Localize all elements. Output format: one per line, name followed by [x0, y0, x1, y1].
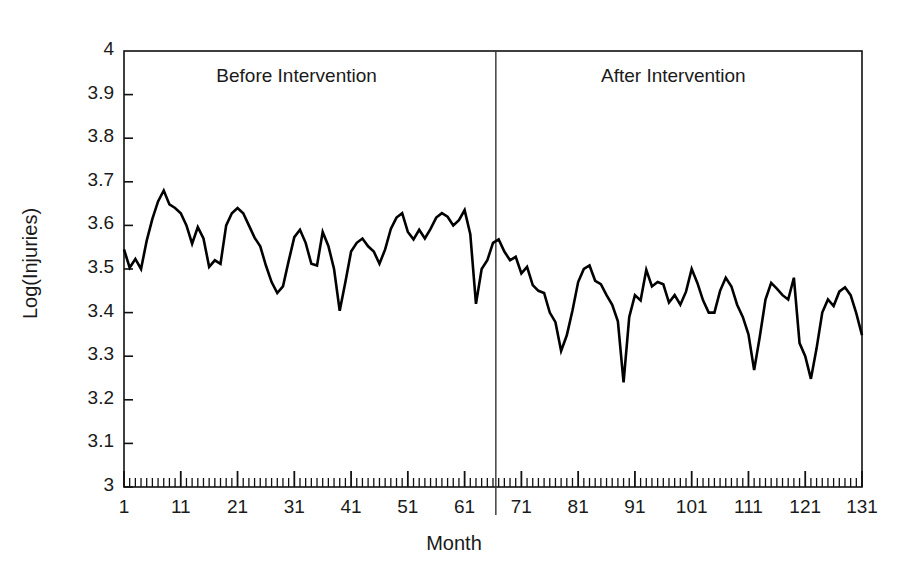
y-axis-tick-label: 3.7 [30, 169, 114, 191]
plot-border [124, 51, 862, 487]
y-axis-tick-label: 3.4 [30, 300, 114, 322]
after-intervention-label: After Intervention [601, 65, 746, 87]
y-axis-tick-label: 3.3 [30, 343, 114, 365]
y-axis-tick-label: 3.1 [30, 430, 114, 452]
y-axis-tick-label: 3.2 [30, 387, 114, 409]
y-axis-title: Log(Injuries) [19, 154, 42, 374]
x-axis-minor-ticks [130, 478, 857, 487]
y-axis-tick-label: 3.9 [30, 82, 114, 104]
data-series-line [124, 191, 862, 383]
x-axis-tick-label: 131 [822, 496, 902, 518]
y-axis-ticks [124, 95, 133, 487]
y-axis-tick-label: 3.5 [30, 256, 114, 278]
y-axis-tick-label: 3.6 [30, 212, 114, 234]
y-axis-tick-label: 3 [30, 474, 114, 496]
y-axis-tick-label: 3.8 [30, 125, 114, 147]
chart-figure: 43.93.83.73.63.53.43.33.23.13 1112131415… [0, 0, 908, 579]
line-chart-plot [0, 0, 908, 579]
before-intervention-label: Before Intervention [216, 65, 377, 87]
x-axis-title: Month [0, 532, 908, 555]
y-axis-tick-label: 4 [30, 38, 114, 60]
